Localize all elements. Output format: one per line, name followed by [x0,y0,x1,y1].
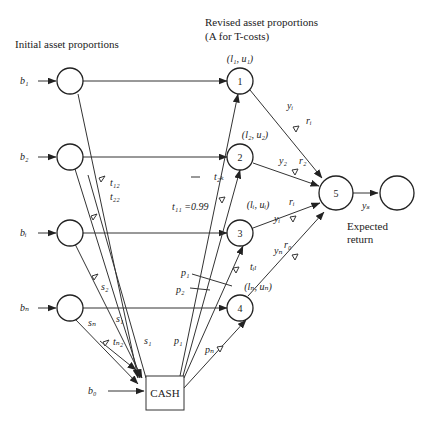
heading-expected: Expected [347,220,388,232]
network-diagram: Initial asset proportions Revised asset … [0,0,439,427]
label-ri: rᵢ [289,196,295,207]
input-bi: bᵢ [20,227,27,238]
label-pn: pₙ [204,344,214,355]
input-b0: b₀ [88,385,97,396]
label-til: tᵢₗ [250,261,257,272]
node-3-label: 3 [238,228,243,239]
label-r0: r₀ [284,239,292,250]
cost-marker-til [233,267,239,273]
label-s1a: s₁ [116,313,123,324]
label-ys: yₛ [361,200,370,211]
node-4-label: 4 [238,303,243,314]
label-s1b: s₁ [144,335,151,346]
cost-marker-tn2 [103,340,109,346]
direct-links [83,81,227,308]
expected-return-node [380,176,414,210]
heading-return: return [347,233,374,245]
label-sn: sₙ [88,317,96,328]
input-bn: bₙ [20,302,29,313]
label-yi: yᵢ [273,213,280,224]
initial-node-2 [57,144,83,170]
heading-revised-sub: (A for T-costs) [205,30,270,43]
node-2-label: 2 [238,152,243,163]
return-marker-r0 [292,254,298,260]
label-y1: yᵢ [286,100,293,111]
aggregation-links [248,90,378,296]
label-p1a: p₁ [180,267,189,278]
cost-marker-t12 [99,176,105,182]
label-r1: rᵢ [306,115,312,126]
bounds-1: (l₁, u₁) [227,53,254,65]
input-b2: b₂ [20,151,29,162]
initial-node-n [57,295,83,321]
label-y2: y₂ [278,155,287,166]
node-1-label: 1 [238,76,243,87]
label-t11: t₁₁ =0.99 [172,201,208,212]
input-arrows [38,81,144,391]
node-5-label: 5 [334,188,339,199]
label-t12: t₁₂ [110,177,120,188]
cash-label: CASH [150,387,179,399]
bounds-2: (l₂, u₂) [242,129,269,141]
return-marker-ri [290,216,296,222]
cost-marker-t2k [219,197,225,203]
bounds-n: (lₙ, uₙ) [244,281,272,293]
return-marker-r1 [293,126,299,132]
cost-marker-t22 [91,214,97,220]
input-b1: b₁ [20,75,28,86]
label-t22: t₂₂ [110,191,120,202]
label-yn: yₙ [273,245,283,256]
label-t2k: t₂ₖ [214,171,224,182]
label-p2: p₂ [175,284,185,295]
heading-revised: Revised asset proportions [205,16,318,28]
return-marker-r2 [292,169,298,175]
bounds-i: (lᵢ, uᵢ) [247,199,270,211]
sell-links [75,94,146,384]
label-r2: r₂ [299,155,307,166]
heading-initial: Initial asset proportions [15,38,119,50]
label-s2: s₂ [101,281,109,292]
label-tn2: tₙ₂ [113,336,124,347]
initial-node-i [57,220,83,246]
label-p1b: p₁ [173,335,182,346]
initial-node-1 [57,68,83,94]
